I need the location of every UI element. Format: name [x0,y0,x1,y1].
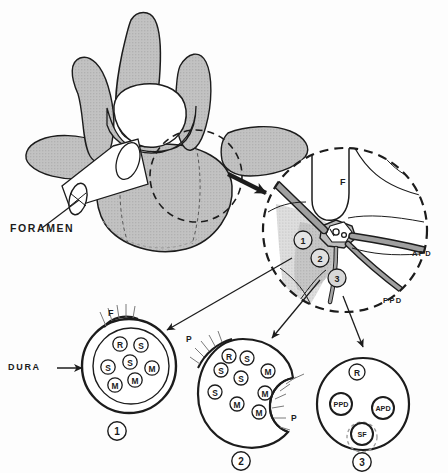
fascicle-s: S [234,371,248,385]
spinal-canal [114,84,186,148]
fascicle-s: S [101,360,115,374]
fascicle-label: M [234,400,241,410]
fascicle-label: S [138,341,144,351]
detail-marker-1: 1 [294,231,312,249]
dura-label: DURA [8,363,41,372]
detail-marker-2-label: 2 [317,254,322,264]
fascicle-sf: SF [351,423,373,445]
fascicle-label: S [218,366,224,376]
fascicle-ppd: PPD [330,393,352,415]
section-1-number-badge: 1 [108,422,126,440]
fascicle-label: SF [357,430,367,439]
fascicle-s: S [208,385,222,399]
fascicle-label: M [256,408,263,418]
fascicle-label: S [238,374,244,384]
fascicle-label: PPD [334,400,349,409]
fascicle-label: S [244,354,250,364]
fascicle-m: M [252,405,266,419]
detail-marker-2: 2 [311,249,329,267]
fascicle-label: S [127,358,133,368]
fascicle-label: S [105,363,111,373]
cross-section-1: RSSSMMM 1 [57,304,176,440]
ppd-label: PPD [383,297,403,305]
detail-marker-3-label: 3 [334,274,339,284]
fascicle-label: R [117,340,123,350]
detail-marker-1-label: 1 [300,236,305,246]
fascicle-label: S [212,388,218,398]
fascicle-label: M [265,367,272,377]
cross-section-3: RPPDAPDSF 3 [317,358,409,471]
fascicle-s: S [240,351,254,365]
fascicle-m: M [128,373,142,387]
fascicle-label: R [226,352,232,362]
facet-label-detail: F [340,178,346,187]
figure-canvas: 1 2 3 [0,0,448,473]
fascicle-label: R [354,368,360,378]
foramen-label: FORAMEN [10,223,74,234]
fascicle-s: S [214,363,228,377]
fascicle-label: M [112,381,119,391]
leader-to-section-1 [167,258,292,330]
fascicle-s: S [134,338,148,352]
magnify-arrow [228,174,266,193]
fascicle-m: M [145,361,159,375]
fascicle-m: M [108,378,122,392]
fascicle-r: R [222,349,236,363]
apd-label: APD [412,250,432,258]
section-3-number-label: 3 [359,457,365,468]
detail-marker-3: 3 [328,269,346,287]
fascicle-m: M [261,364,275,378]
section-2-number-label: 2 [238,456,244,467]
fascicle-r: R [349,364,365,380]
fascicle-m: M [258,386,272,400]
fascicle-r: R [113,337,127,351]
fascicle-m: M [230,397,244,411]
fascicle-apd: APD [372,397,394,419]
fascicle-label: M [132,376,139,386]
fascicle-s: S [123,355,137,369]
fascicle-label: APD [375,404,390,413]
fascicle-label: M [149,364,156,374]
section-1-facet-label: F [108,309,114,318]
section-2-pedicle-label-top: P [186,335,192,344]
section-1-number-label: 1 [114,426,120,437]
section-2-number-badge: 2 [232,452,250,470]
fascicle-label: M [262,389,269,399]
section-2-pedicle-label-bottom: P [291,414,297,423]
cross-section-2: RSSSSMMMM 2 [190,331,304,470]
section-3-number-badge: 3 [353,453,371,471]
diagram-svg: 1 2 3 [0,0,448,473]
